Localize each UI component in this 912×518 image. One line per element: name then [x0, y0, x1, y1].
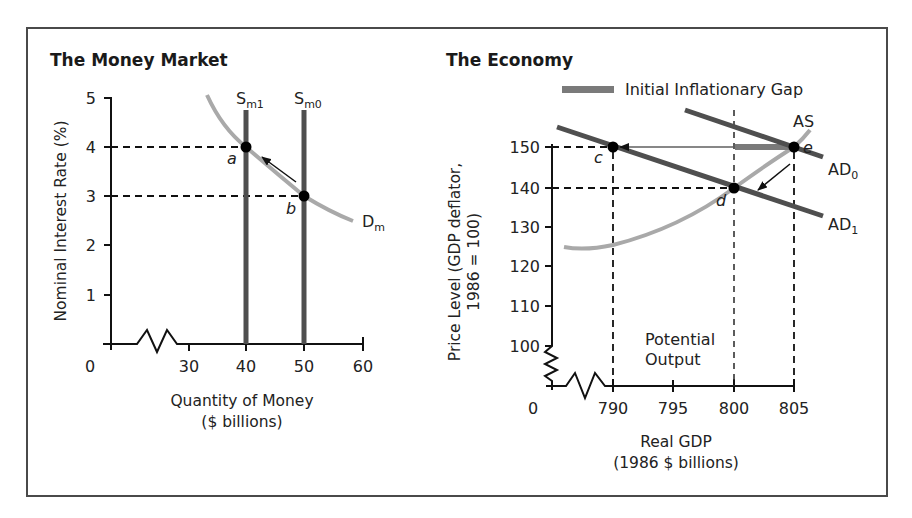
economy-x-tick-0: 0 — [528, 399, 538, 418]
legend: Initial Inflationary Gap — [562, 80, 803, 99]
economy-y-axis-label: Price Level (GDP deflator, — [446, 163, 464, 361]
money-shift-arrow — [262, 157, 296, 182]
economy-chart: The Economy Initial Inflationary Gap Pri… — [446, 50, 858, 472]
money-x-tick-0: 0 — [85, 357, 95, 376]
money-y-tick-2: 2 — [86, 236, 96, 255]
point-b-label: b — [286, 199, 296, 218]
point-d — [729, 183, 740, 194]
money-x-tick-40: 40 — [236, 357, 256, 376]
money-x-axis-unit: ($ billions) — [201, 413, 282, 431]
economy-title: The Economy — [446, 50, 573, 70]
money-market-title: The Money Market — [50, 50, 228, 70]
sm0-label: Sm0 — [294, 89, 322, 111]
money-x-tick-30: 30 — [179, 357, 199, 376]
economy-x-axis-label: Real GDP — [640, 433, 712, 451]
point-d-label: d — [716, 191, 727, 210]
economy-x-tick-790: 790 — [598, 399, 629, 418]
point-e — [789, 142, 800, 153]
money-x-axis-label: Quantity of Money — [170, 392, 313, 410]
money-y-tick-1: 1 — [86, 286, 96, 305]
economy-y-tick-100: 100 — [509, 337, 540, 356]
economy-x-tick-795: 795 — [658, 399, 689, 418]
money-y-tick-4: 4 — [86, 138, 96, 157]
figure-canvas: The Money Market Nominal Interest Rate (… — [0, 0, 912, 518]
point-c-label: c — [594, 148, 603, 167]
as-label: AS — [793, 112, 814, 131]
point-a-label: a — [227, 149, 237, 168]
ad1-line — [557, 127, 823, 216]
ad1-label: AD1 — [828, 215, 858, 237]
potential-output-label-2: Output — [645, 350, 701, 369]
point-a — [241, 142, 252, 153]
dm-label: Dm — [362, 212, 385, 234]
economy-y-tick-150: 150 — [509, 138, 540, 157]
economy-y-tick-140: 140 — [509, 179, 540, 198]
economy-x-axis-unit: (1986 $ billions) — [613, 454, 739, 472]
potential-output-label-1: Potential — [645, 330, 715, 349]
money-y-tick-3: 3 — [86, 187, 96, 206]
money-y-axis-label: Nominal Interest Rate (%) — [52, 121, 70, 322]
money-market-chart: The Money Market Nominal Interest Rate (… — [50, 50, 385, 431]
money-x-tick-50: 50 — [294, 357, 314, 376]
legend-label-gap: Initial Inflationary Gap — [625, 80, 803, 99]
economy-y-tick-130: 130 — [509, 218, 540, 237]
ad0-label: AD0 — [828, 160, 858, 182]
sm1-label: Sm1 — [236, 89, 264, 111]
economy-x-tick-800: 800 — [719, 399, 750, 418]
money-x-tick-60: 60 — [353, 357, 373, 376]
point-c — [608, 142, 619, 153]
point-e-label: e — [803, 138, 813, 157]
economy-x-tick-805: 805 — [779, 399, 810, 418]
money-y-tick-5: 5 — [86, 89, 96, 108]
point-b — [299, 191, 310, 202]
economy-y-axis-label-2: 1986 = 100) — [465, 213, 483, 311]
economy-y-tick-120: 120 — [509, 257, 540, 276]
legend-swatch-gap — [562, 86, 614, 93]
economy-y-tick-110: 110 — [509, 297, 540, 316]
